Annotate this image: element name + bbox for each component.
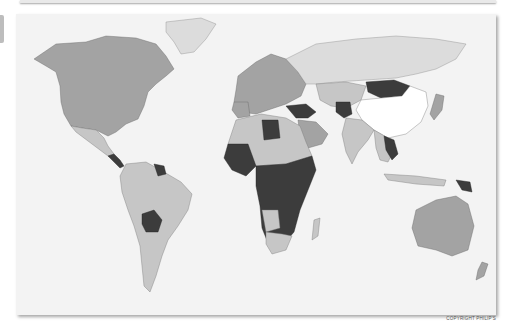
previous-panel-edge [20, 0, 496, 3]
middle-east-dark [286, 104, 316, 118]
central-america [108, 154, 124, 168]
world-map-panel [16, 14, 496, 315]
madagascar [312, 218, 320, 240]
australia [412, 196, 474, 256]
iberia [232, 102, 250, 118]
north-america [34, 36, 174, 136]
greenland [166, 18, 216, 54]
copyright-text: COPYRIGHT PHILIP'S [446, 316, 496, 321]
side-tab [0, 15, 4, 43]
indonesia [384, 174, 446, 186]
afghanistan [336, 102, 352, 118]
papua-new-guinea [456, 180, 472, 192]
new-zealand [476, 262, 488, 280]
world-map [16, 14, 496, 315]
japan [430, 94, 444, 120]
russia [286, 36, 466, 84]
south-africa [266, 232, 292, 254]
libya [262, 120, 280, 140]
central-south-africa [256, 156, 316, 248]
